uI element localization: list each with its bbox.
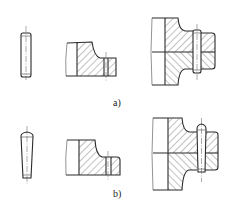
part-with-hole-section-b [66, 140, 120, 181]
part-with-hole-section-a [66, 42, 116, 82]
assembled-joint-section-b [152, 118, 218, 190]
panel-a-label: a) [113, 97, 121, 108]
taper-pin-view [21, 126, 33, 184]
cylindrical-pin-view [21, 26, 31, 80]
panel-a [21, 18, 215, 85]
panel-b-label: b) [113, 188, 121, 199]
panel-b [21, 118, 218, 190]
assembled-joint-section-a [151, 18, 215, 85]
